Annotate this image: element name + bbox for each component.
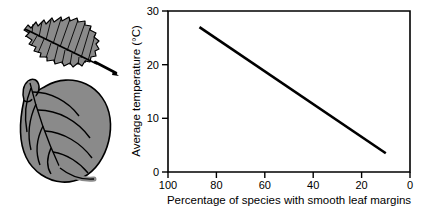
y-tick-label: 20 xyxy=(147,59,159,71)
x-tick-label: 0 xyxy=(407,179,413,191)
x-axis-title: Percentage of species with smooth leaf m… xyxy=(167,194,411,206)
y-tick-label: 0 xyxy=(153,166,159,178)
chart-svg: 0 10 20 30 100 80 60 40 20 0 xyxy=(128,0,436,210)
data-series-line xyxy=(199,27,385,153)
y-axis-tick-labels: 0 10 20 30 xyxy=(147,5,159,178)
y-axis-ticks xyxy=(162,11,168,172)
x-tick-label: 20 xyxy=(355,179,367,191)
toothed-leaf-icon xyxy=(24,17,119,76)
plot-frame xyxy=(168,11,410,172)
y-axis-title: Average temperature (°C) xyxy=(130,25,142,157)
temperature-trend-line xyxy=(199,27,385,153)
y-tick-label: 30 xyxy=(147,5,159,17)
x-tick-label: 100 xyxy=(159,179,177,191)
x-tick-label: 80 xyxy=(210,179,222,191)
figure-root: 0 10 20 30 100 80 60 40 20 0 xyxy=(0,0,436,210)
x-tick-label: 40 xyxy=(307,179,319,191)
x-tick-label: 60 xyxy=(259,179,271,191)
x-axis-ticks xyxy=(168,172,410,178)
x-axis-tick-labels: 100 80 60 40 20 0 xyxy=(159,179,413,191)
smooth-leaf-icon xyxy=(21,79,111,182)
temperature-vs-leaf-margin-chart: 0 10 20 30 100 80 60 40 20 0 xyxy=(128,0,436,210)
y-tick-label: 10 xyxy=(147,112,159,124)
